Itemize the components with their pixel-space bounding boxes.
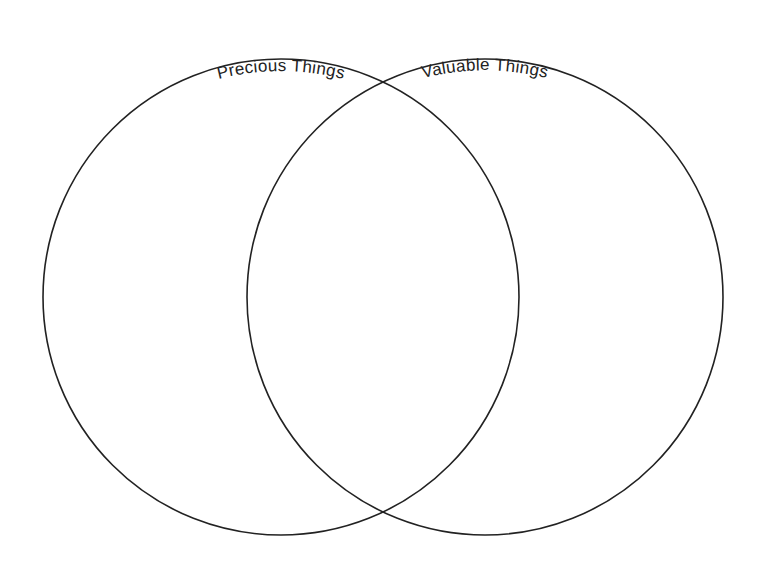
label-precious-things-text: Precious Things — [215, 56, 347, 83]
circle-valuable-things — [247, 59, 723, 535]
label-precious-things: Precious Things — [215, 56, 347, 83]
venn-diagram: Precious Things Valuable Things — [0, 0, 764, 565]
label-valuable-things-text: Valuable Things — [420, 55, 551, 82]
label-valuable-things: Valuable Things — [420, 55, 551, 82]
circle-precious-things — [43, 59, 519, 535]
